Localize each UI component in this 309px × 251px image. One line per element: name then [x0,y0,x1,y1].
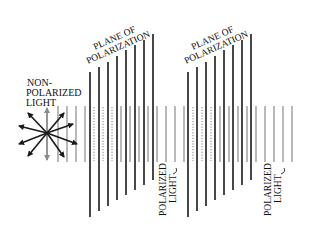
pointer-tick-icon [281,168,285,174]
plane-of-polarization-label-2: PLANE OF POLARIZATION [183,24,250,65]
polarized-light-wave [58,106,292,162]
polarized-light-label-2: POLARIZED LIGHT [263,163,285,216]
svg-text:POLARIZED: POLARIZED [263,163,273,216]
svg-text:LIGHT: LIGHT [168,174,178,203]
polarization-diagram: NON- POLARIZED LIGHT PLANE OF POLARIZATI… [0,0,309,251]
svg-text:POLARIZED: POLARIZED [158,163,168,216]
pointer-tick-icon [173,168,177,174]
non-polarized-label: NON- POLARIZED LIGHT [26,77,82,108]
non-polarized-light-source [19,108,77,160]
svg-text:LIGHT: LIGHT [26,97,56,108]
svg-text:LIGHT: LIGHT [273,174,283,203]
polarized-light-label-1: POLARIZED LIGHT [158,163,178,216]
plane-of-polarization-label-1: PLANE OF POLARIZATION [85,24,152,65]
